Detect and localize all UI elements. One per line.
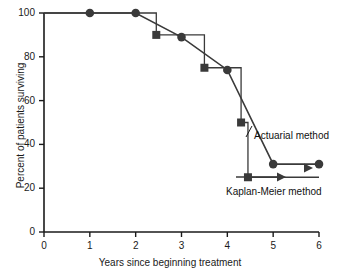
y-tick-label: 100 [5,7,35,18]
x-tick-label: 6 [307,240,331,251]
actuarial-data-point [315,160,324,169]
actuarial-data-point [223,66,232,75]
actuarial-data-point [177,33,186,42]
actuarial-data-point [86,9,95,18]
kaplan-meier-markers [152,31,252,181]
y-tick-label: 0 [5,226,35,237]
actuarial-series [44,9,323,173]
kaplan-meier-arrow-head [277,173,286,182]
actuarial-data-point [269,160,278,169]
y-tick-label: 20 [5,182,35,193]
x-tick-label: 3 [170,240,194,251]
x-tick-label: 2 [124,240,148,251]
x-tick-label: 5 [261,240,285,251]
x-tick-label: 4 [215,240,239,251]
actuarial-data-point [131,9,140,18]
y-tick-label: 60 [5,95,35,106]
survival-curve-figure: Years since beginning treatment Percent … [0,0,340,275]
kaplan-meier-data-point [237,119,245,127]
kaplan-meier-data-point [200,64,208,72]
actuarial-leader-line [246,126,252,137]
x-axis-title: Years since beginning treatment [0,257,340,268]
kaplan-meier-data-point [152,31,160,39]
actuarial-method-label: Actuarial method [254,130,329,141]
y-tick-label: 40 [5,138,35,149]
kaplan-meier-arrow [236,173,286,182]
y-tick-label: 80 [5,51,35,62]
x-tick-label: 0 [32,240,56,251]
kaplan-meier-method-label: Kaplan-Meier method [226,186,322,197]
axis-lines [44,13,319,232]
actuarial-markers [86,9,324,169]
x-tick-label: 1 [78,240,102,251]
